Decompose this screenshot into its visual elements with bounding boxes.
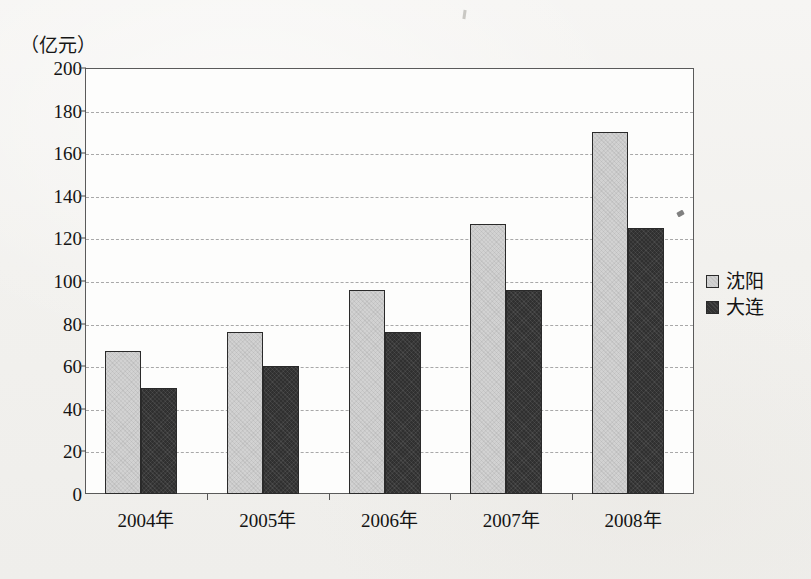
- x-tick-mark-4: [572, 494, 573, 500]
- x-tick-mark-1: [207, 494, 208, 500]
- legend-label-大连: 大连: [726, 298, 764, 317]
- bar-大连-2007年: [506, 290, 542, 494]
- bar-沈阳-2007年: [470, 224, 506, 495]
- x-tick-mark-3: [450, 494, 451, 500]
- x-axis-label-2007年: 2007年: [441, 505, 581, 532]
- y-tick-label-0: 0: [22, 485, 82, 504]
- y-tick-label-20: 20: [22, 442, 82, 461]
- bar-沈阳-2005年: [227, 332, 263, 494]
- x-axis-label-2006年: 2006年: [320, 505, 460, 532]
- legend-item-大连: 大连: [706, 294, 764, 320]
- y-axis-unit-label: （亿元）: [20, 30, 96, 57]
- bar-大连-2005年: [263, 366, 299, 494]
- light-gray-swatch: [706, 275, 719, 288]
- y-tick-label-120: 120: [22, 229, 82, 248]
- bar-沈阳-2006年: [349, 290, 385, 494]
- bars-layer: [85, 68, 694, 494]
- y-tick-label-80: 80: [22, 314, 82, 333]
- chart-legend: 沈阳大连: [706, 268, 764, 320]
- bar-chart-figure: （亿元） 200180160140120100806040200 2004年20…: [0, 0, 811, 579]
- x-axis-label-2008年: 2008年: [563, 505, 703, 532]
- bar-大连-2006年: [385, 332, 421, 494]
- y-tick-label-100: 100: [22, 272, 82, 291]
- legend-item-沈阳: 沈阳: [706, 268, 764, 294]
- bar-沈阳-2008年: [592, 132, 628, 494]
- bar-大连-2008年: [628, 228, 664, 494]
- legend-label-沈阳: 沈阳: [726, 272, 764, 291]
- bar-group-2007年: [470, 68, 542, 494]
- x-axis-label-2004年: 2004年: [76, 505, 216, 532]
- bar-group-2008年: [592, 68, 664, 494]
- x-axis-label-2005年: 2005年: [198, 505, 338, 532]
- dark-gray-swatch: [706, 301, 719, 314]
- scan-artifact-mark: [462, 10, 466, 19]
- bar-group-2005年: [227, 68, 299, 494]
- y-tick-label-180: 180: [22, 101, 82, 120]
- y-tick-label-40: 40: [22, 399, 82, 418]
- bar-group-2006年: [349, 68, 421, 494]
- y-tick-label-160: 160: [22, 144, 82, 163]
- x-tick-mark-2: [329, 494, 330, 500]
- y-tick-label-140: 140: [22, 186, 82, 205]
- bar-沈阳-2004年: [105, 351, 141, 494]
- bar-group-2004年: [105, 68, 177, 494]
- y-tick-label-60: 60: [22, 357, 82, 376]
- bar-大连-2004年: [141, 388, 177, 495]
- y-tick-label-200: 200: [22, 59, 82, 78]
